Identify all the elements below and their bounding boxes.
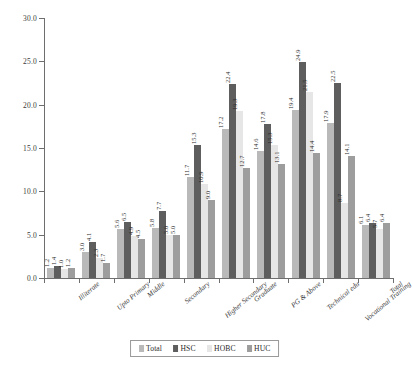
bar-value-label: 5.8 <box>148 218 155 226</box>
x-axis-category-label: Illiterate <box>77 280 101 302</box>
bar-value-label: 15.3 <box>266 133 273 145</box>
bar: 1.0 <box>61 269 68 278</box>
x-axis-tick <box>219 278 220 283</box>
x-axis-tick <box>323 278 324 283</box>
y-axis-tick-label: 0.0 <box>27 274 44 283</box>
x-axis-tick <box>44 278 45 283</box>
y-axis-tick-label: 5.0 <box>27 230 44 239</box>
bar-value-label: 17.2 <box>217 116 224 128</box>
bar: 15.3 <box>194 145 201 278</box>
bar-slot: 17.2 <box>222 129 229 278</box>
bar-slot: 15.3 <box>194 145 201 278</box>
bar: 1.2 <box>47 268 54 278</box>
bar-value-label: 1.4 <box>50 257 57 265</box>
x-axis-tick <box>288 278 289 283</box>
bar-group: 17.922.58.714.1 <box>323 18 358 278</box>
bar: 9.0 <box>208 200 215 278</box>
y-axis-tick-label: 20.0 <box>23 100 44 109</box>
bar-value-label: 13.1 <box>273 152 280 164</box>
bar-slot: 8.7 <box>341 203 348 278</box>
bar: 12.7 <box>243 168 250 278</box>
legend-swatch-icon <box>139 345 144 352</box>
bar-group: 5.87.75.05.0 <box>149 18 184 278</box>
chart-legend: TotalHSCHOBCHUC <box>130 340 280 357</box>
bar-value-label: 19.3 <box>231 98 238 110</box>
bar-value-label: 21.5 <box>301 79 308 91</box>
bar-value-label: 14.1 <box>343 143 350 155</box>
bar-value-label: 4.9 <box>127 226 134 234</box>
bar: 1.2 <box>68 268 75 278</box>
bar-slot: 17.8 <box>264 124 271 278</box>
bar: 17.8 <box>264 124 271 278</box>
bar: 14.4 <box>313 153 320 278</box>
bar-slot: 6.1 <box>362 225 369 278</box>
bar-slot: 6.4 <box>369 223 376 278</box>
bar-slot: 4.9 <box>131 236 138 278</box>
x-axis-tick <box>393 278 394 283</box>
bar-group: 17.222.419.312.7 <box>219 18 254 278</box>
bar-value-label: 6.5 <box>120 212 127 220</box>
x-axis-category-label: Secondary <box>183 280 211 306</box>
x-axis-tick <box>184 278 185 283</box>
bar: 6.1 <box>362 225 369 278</box>
y-axis-tick-label: 25.0 <box>23 57 44 66</box>
legend-item[interactable]: HUC <box>247 344 271 353</box>
bar-value-label: 22.5 <box>329 70 336 82</box>
bar: 7.7 <box>159 211 166 278</box>
x-axis-tick <box>79 278 80 283</box>
legend-label: HSC <box>181 344 196 353</box>
bar-slot: 21.5 <box>306 92 313 278</box>
x-axis-category-label: Technical edu <box>325 280 361 312</box>
bar-slot: 5.0 <box>173 235 180 278</box>
bar-value-label: 5.0 <box>169 225 176 233</box>
bar-group: 6.16.45.76.4 <box>358 18 393 278</box>
x-axis-tick <box>114 278 115 283</box>
bar-slot: 3.0 <box>82 252 89 278</box>
bar-slot: 5.0 <box>166 235 173 278</box>
bar: 6.4 <box>369 223 376 278</box>
bar-group: 5.66.54.94.5 <box>114 18 149 278</box>
bar-slot: 9.0 <box>208 200 215 278</box>
bar: 24.9 <box>299 62 306 278</box>
legend-item[interactable]: HSC <box>173 344 196 353</box>
bar-slot: 7.7 <box>159 211 166 278</box>
bar-slot: 14.1 <box>348 156 355 278</box>
bar-value-label: 7.7 <box>155 202 162 210</box>
bar-slot: 5.8 <box>152 228 159 278</box>
bar: 22.5 <box>334 83 341 278</box>
bar: 6.4 <box>383 223 390 278</box>
bar-value-label: 22.4 <box>224 71 231 83</box>
bar-slot: 24.9 <box>299 62 306 278</box>
bar: 5.8 <box>152 228 159 278</box>
bar-slot: 22.4 <box>229 84 236 278</box>
bar-value-label: 4.1 <box>85 233 92 241</box>
bar-value-label: 19.4 <box>287 97 294 109</box>
bar-slot: 11.7 <box>187 177 194 278</box>
bar: 19.4 <box>292 110 299 278</box>
bar: 21.5 <box>306 92 313 278</box>
x-axis-category-label: Upto Primary <box>116 280 152 312</box>
legend-swatch-icon <box>207 345 212 352</box>
bar-group: 19.424.921.514.4 <box>288 18 323 278</box>
bar: 3.0 <box>82 252 89 278</box>
bar: 5.0 <box>173 235 180 278</box>
y-axis-tick-label: 10.0 <box>23 187 44 196</box>
x-axis-category-label: Vocational Training <box>364 280 413 323</box>
bar-slot: 1.0 <box>61 269 68 278</box>
x-axis-category-label: PG & Above <box>289 280 322 310</box>
legend-label: HOBC <box>214 344 236 353</box>
bar-group: 11.715.310.99.0 <box>184 18 219 278</box>
legend-item[interactable]: HOBC <box>207 344 236 353</box>
bar-value-label: 4.5 <box>134 230 141 238</box>
bar-slot: 14.6 <box>257 151 264 278</box>
legend-item[interactable]: Total <box>139 344 163 353</box>
legend-swatch-icon <box>173 345 178 352</box>
legend-label: HUC <box>254 344 270 353</box>
bar: 4.5 <box>138 239 145 278</box>
bar-group: 14.617.815.313.1 <box>253 18 288 278</box>
bar-value-label: 2.3 <box>92 249 99 257</box>
bar-value-label: 1.0 <box>57 260 64 268</box>
bar-value-label: 12.7 <box>238 155 245 167</box>
x-axis-tick <box>253 278 254 283</box>
bar-slot: 17.9 <box>327 123 334 278</box>
